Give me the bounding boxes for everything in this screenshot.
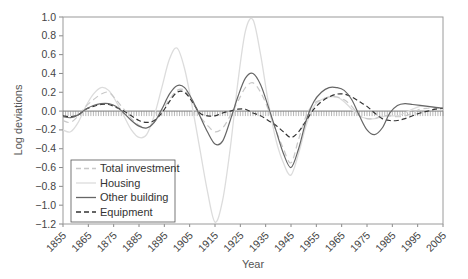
legend: Total investmentHousingOther buildingEqu… (71, 160, 179, 222)
x-tick-label: 1865 (69, 229, 94, 254)
y-tick-label: −0.8 (35, 180, 56, 192)
y-tick-label: −0.4 (35, 142, 56, 154)
line-chart: 1.00.80.60.40.20.0−0.2−0.4−0.6−0.8−1.0−1… (0, 0, 468, 279)
y-tick-label: 0.2 (41, 86, 56, 98)
x-tick-label: 1945 (271, 229, 296, 254)
y-axis-title: Log deviations (12, 84, 24, 155)
y-tick-label: 0.4 (41, 67, 56, 79)
y-tick-label: 0.0 (41, 105, 56, 117)
y-tick-label: 1.0 (41, 11, 56, 23)
y-tick-label: −0.2 (35, 123, 56, 135)
x-tick-label: 1855 (43, 229, 68, 254)
x-tick-label: 1875 (94, 229, 119, 254)
legend-label: Equipment (100, 206, 153, 218)
x-tick-label: 1935 (246, 229, 271, 254)
y-axis: 1.00.80.60.40.20.0−0.2−0.4−0.6−0.8−1.0−1… (35, 11, 63, 230)
series-other-building (63, 73, 443, 167)
x-axis-title: Year (242, 258, 265, 270)
y-tick-label: −1.0 (35, 199, 56, 211)
x-tick-label: 1955 (297, 229, 322, 254)
y-tick-label: −1.2 (35, 218, 56, 230)
x-tick-label: 2005 (423, 229, 448, 254)
series-total-investment (63, 83, 443, 163)
x-tick-label: 1895 (145, 229, 170, 254)
x-tick-label: 1985 (373, 229, 398, 254)
x-tick-label: 1925 (221, 229, 246, 254)
y-tick-label: −0.6 (35, 161, 56, 173)
x-tick-label: 1995 (398, 229, 423, 254)
legend-label: Total investment (100, 162, 179, 174)
x-tick-label: 1965 (322, 229, 347, 254)
x-axis: 1855186518751885189519051915192519351945… (43, 224, 448, 254)
legend-label: Other building (100, 191, 169, 203)
legend-label: Housing (100, 177, 140, 189)
x-tick-label: 1975 (347, 229, 372, 254)
y-tick-label: 0.6 (41, 48, 56, 60)
y-tick-label: 0.8 (41, 29, 56, 41)
x-tick-label: 1885 (119, 229, 144, 254)
x-tick-label: 1915 (195, 229, 220, 254)
x-tick-label: 1905 (170, 229, 195, 254)
